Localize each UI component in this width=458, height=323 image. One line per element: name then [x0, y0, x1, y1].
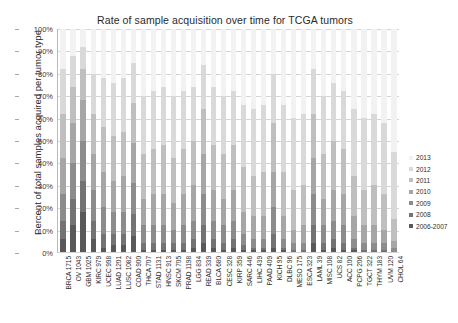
- stacked-bar[interactable]: [60, 29, 65, 252]
- stacked-bar[interactable]: [391, 29, 396, 252]
- x-label-slot: UCS 82: [329, 254, 339, 320]
- stacked-bar[interactable]: [321, 29, 326, 252]
- bar-segment: [161, 194, 166, 225]
- legend-item[interactable]: 2009: [409, 198, 457, 209]
- bar-segment: [301, 225, 306, 243]
- stacked-bar[interactable]: [141, 29, 146, 252]
- bar-segment: [361, 225, 366, 243]
- bar-segment: [181, 225, 186, 243]
- stacked-bar[interactable]: [291, 29, 296, 252]
- stacked-bar[interactable]: [131, 29, 136, 252]
- legend-label: 2013: [416, 154, 431, 161]
- bar-segment: [231, 248, 236, 252]
- x-label-slot: CHOL 64: [389, 254, 399, 320]
- y-axis-tick-mark: [15, 253, 19, 254]
- bar-segment: [331, 29, 336, 83]
- y-axis-tick-mark: [15, 74, 19, 75]
- stacked-bar[interactable]: [311, 29, 316, 252]
- bar-segment: [111, 29, 116, 83]
- bar-slot: [299, 29, 309, 252]
- stacked-bar[interactable]: [80, 29, 85, 252]
- bar-segment: [131, 143, 136, 183]
- bar-segment: [271, 207, 276, 234]
- x-axis-tick-labels: BRCA 1715OV 1043GBM 1025KIRC 979UCEC 998…: [57, 254, 399, 320]
- bar-segment: [101, 248, 106, 252]
- stacked-bar[interactable]: [191, 29, 196, 252]
- bar-segment: [291, 29, 296, 118]
- legend-item[interactable]: 2011: [409, 175, 457, 186]
- stacked-bar[interactable]: [221, 29, 226, 252]
- bar-segment: [181, 194, 186, 225]
- bar-segment: [241, 105, 246, 167]
- x-label-slot: UCEC 998: [97, 254, 107, 320]
- y-axis-tick-label: 70%: [23, 92, 53, 101]
- stacked-bar[interactable]: [261, 29, 266, 252]
- stacked-bar[interactable]: [171, 29, 176, 252]
- bar-segment: [221, 29, 226, 96]
- bar-segment: [361, 29, 366, 118]
- bar-segment: [91, 74, 96, 114]
- stacked-bar[interactable]: [271, 29, 276, 252]
- bar-slot: [289, 29, 299, 252]
- legend-label: 2009: [416, 200, 431, 207]
- bar-segment: [181, 149, 186, 194]
- y-axis-tick-mark: [15, 208, 19, 209]
- stacked-bar[interactable]: [101, 29, 106, 252]
- bar-segment: [181, 250, 186, 252]
- stacked-bar[interactable]: [331, 29, 336, 252]
- legend-item[interactable]: 2013: [409, 152, 457, 163]
- bar-segment: [271, 123, 276, 172]
- x-label-slot: KIRP 359: [228, 254, 238, 320]
- stacked-bar[interactable]: [351, 29, 356, 252]
- bar-segment: [341, 250, 346, 252]
- bar-segment: [321, 29, 326, 96]
- bar-slot: [309, 29, 319, 252]
- bar-segment: [261, 29, 266, 105]
- bar-segment: [341, 243, 346, 250]
- legend-item[interactable]: 2008: [409, 209, 457, 220]
- stacked-bar[interactable]: [111, 29, 116, 252]
- stacked-bar[interactable]: [151, 29, 156, 252]
- stacked-bar[interactable]: [381, 29, 386, 252]
- stacked-bar[interactable]: [91, 29, 96, 252]
- bar-segment: [151, 243, 156, 250]
- bar-segment: [371, 243, 376, 250]
- bar-segment: [121, 78, 126, 132]
- bar-segment: [211, 248, 216, 252]
- stacked-bar[interactable]: [371, 29, 376, 252]
- bar-segment: [151, 149, 156, 194]
- bar-segment: [151, 250, 156, 252]
- stacked-bar[interactable]: [241, 29, 246, 252]
- stacked-bar[interactable]: [121, 29, 126, 252]
- bar-segment: [311, 194, 316, 225]
- stacked-bar[interactable]: [161, 29, 166, 252]
- stacked-bar[interactable]: [301, 29, 306, 252]
- bar-segment: [121, 212, 126, 234]
- stacked-bar[interactable]: [211, 29, 216, 252]
- bar-segment: [391, 248, 396, 252]
- bar-segment: [211, 87, 216, 145]
- y-axis-tick-label: 80%: [23, 69, 53, 78]
- bar-segment: [191, 248, 196, 252]
- legend-item[interactable]: 2006-2007: [409, 220, 457, 231]
- bar-segment: [341, 194, 346, 225]
- stacked-bar[interactable]: [70, 29, 75, 252]
- y-axis-tick-mark: [15, 29, 19, 30]
- bar-segment: [301, 250, 306, 252]
- bar-segment: [261, 105, 266, 172]
- stacked-bar[interactable]: [361, 29, 366, 252]
- bar-segment: [191, 185, 196, 221]
- stacked-bar[interactable]: [341, 29, 346, 252]
- stacked-bar[interactable]: [181, 29, 186, 252]
- bar-segment: [201, 154, 206, 194]
- bar-segment: [161, 250, 166, 252]
- legend-label: 2008: [416, 211, 431, 218]
- bar-segment: [80, 181, 85, 212]
- legend-item[interactable]: 2010: [409, 186, 457, 197]
- stacked-bar[interactable]: [231, 29, 236, 252]
- bar-segment: [181, 243, 186, 250]
- stacked-bar[interactable]: [201, 29, 206, 252]
- legend-item[interactable]: 2012: [409, 163, 457, 174]
- stacked-bar[interactable]: [281, 29, 286, 252]
- stacked-bar[interactable]: [251, 29, 256, 252]
